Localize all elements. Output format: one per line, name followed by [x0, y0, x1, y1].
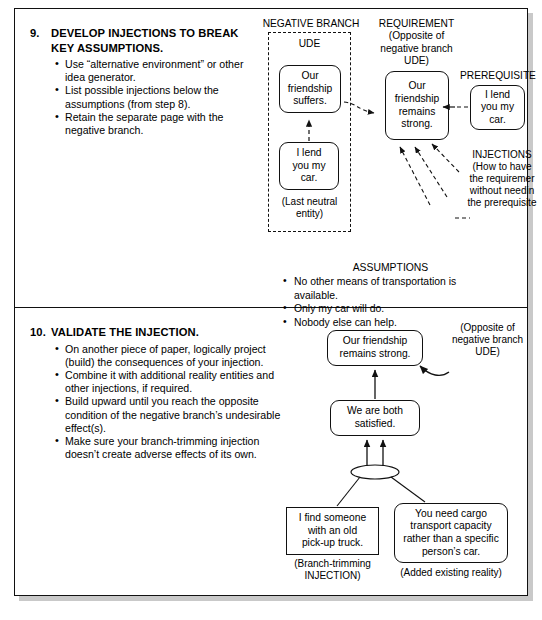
ude-box: Our friendship suffers. — [279, 65, 341, 113]
added-existing-reality-caption: (Added existing reality) — [386, 567, 516, 579]
requirement-box: Our friendship remains strong. — [385, 71, 449, 140]
step-10-heading: 10. VALIDATE THE INJECTION. — [30, 325, 285, 340]
list-item: Use “alternative environment” or other i… — [55, 58, 255, 84]
step-9-block: 9. DEVELOP INJECTIONS TO BREAK KEY ASSUM… — [30, 26, 255, 137]
step-10-number: 10. — [30, 325, 51, 340]
neutral-entity-box: I lend you my car. — [279, 142, 339, 190]
added-existing-reality-box: You need cargo transport capacity rather… — [394, 503, 508, 563]
ude-label: UDE — [268, 38, 351, 50]
prerequisite-label: PREREQUISITE — [455, 70, 541, 82]
list-item: Build upward until you reach the opposit… — [55, 395, 285, 435]
step-10-bullets-wrap: On another piece of paper, logically pro… — [55, 343, 285, 462]
prerequisite-box: I lend you my car. — [470, 85, 525, 130]
injections-label: INJECTIONS (How to have the requiremer w… — [456, 149, 542, 209]
branch-trimming-injection-box: I find someone with an old pick-up truck… — [286, 507, 379, 555]
list-item: Combine it with additional reality entit… — [55, 369, 285, 395]
step-9-heading: 9. DEVELOP INJECTIONS TO BREAK KEY ASSUM… — [30, 26, 255, 55]
step-9-bullets: Use “alternative environment” or other i… — [55, 58, 255, 137]
step-9-bullets-wrap: Use “alternative environment” or other i… — [55, 58, 255, 137]
step-10-block: 10. VALIDATE THE INJECTION. On another p… — [30, 325, 285, 461]
list-item: Retain the separate page with the negati… — [55, 111, 255, 137]
list-item: Make sure your branch-trimming injection… — [55, 435, 285, 461]
step-9-number: 9. — [30, 26, 51, 55]
list-item: On another piece of paper, logically pro… — [55, 343, 285, 369]
assumptions-title: ASSUMPTIONS — [283, 261, 498, 274]
bottom-middle-box: We are both satisfied. — [330, 400, 420, 436]
page-root: 9. DEVELOP INJECTIONS TO BREAK KEY ASSUM… — [0, 0, 542, 620]
requirement-label: REQUIREMENT (Opposite of negative branch… — [364, 18, 469, 68]
list-item: Only my car will do. — [283, 302, 498, 315]
step-10-bullets: On another piece of paper, logically pro… — [55, 343, 285, 462]
list-item: No other means of transportation is avai… — [283, 275, 498, 302]
branch-trimming-injection-caption: (Branch-trimming INJECTION) — [280, 558, 385, 582]
last-neutral-entity-caption: (Last neutral entity) — [268, 196, 351, 220]
negative-branch-label: NEGATIVE BRANCH — [252, 18, 370, 30]
bottom-top-box: Our friendship remains strong. — [327, 330, 423, 366]
step-10-title: VALIDATE THE INJECTION. — [51, 325, 285, 340]
step-9-title: DEVELOP INJECTIONS TO BREAK KEY ASSUMPTI… — [51, 26, 255, 55]
list-item: List possible injections below the assum… — [55, 84, 255, 110]
assumptions-list: No other means of transportation is avai… — [283, 275, 498, 329]
opposite-of-negative-branch-caption: (Opposite of negative branch UDE) — [440, 322, 535, 358]
assumptions-block: ASSUMPTIONS No other means of transporta… — [283, 261, 498, 329]
